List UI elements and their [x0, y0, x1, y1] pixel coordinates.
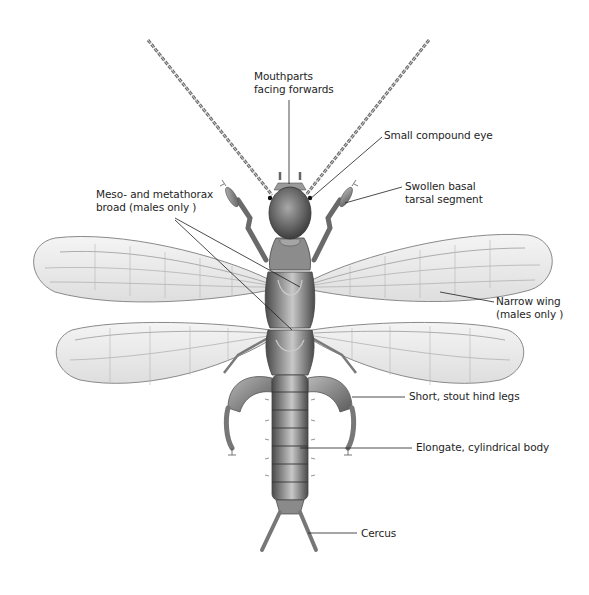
label-hind-legs: Short, stout hind legs [409, 390, 520, 403]
thorax [265, 238, 315, 375]
antenna-left [148, 40, 272, 195]
label-mouthparts: Mouthparts facing forwards [254, 70, 334, 96]
cercus-right [300, 512, 316, 550]
abdomen [265, 375, 315, 514]
insect-diagram: Mouthparts facing forwards Small compoun… [0, 0, 589, 595]
antenna-right [306, 40, 429, 195]
label-narrow-wing: Narrow wing (males only ) [496, 295, 563, 321]
hind-leg-left [226, 377, 272, 455]
label-tarsal-segment: Swollen basal tarsal segment [405, 180, 483, 206]
front-leg-left [220, 180, 266, 260]
front-leg-right [314, 180, 358, 260]
cercus-left [262, 512, 280, 550]
hindwing-right [312, 322, 524, 385]
label-cercus: Cercus [361, 527, 396, 540]
hind-leg-right [308, 377, 354, 455]
label-thorax: Meso- and metathorax broad (males only ) [96, 188, 213, 214]
leader-tarsal-segment [345, 187, 402, 203]
compound-eye-left [268, 196, 272, 200]
label-compound-eye: Small compound eye [384, 129, 493, 142]
forewing-left [34, 236, 270, 301]
head [268, 172, 312, 246]
label-body: Elongate, cylindrical body [416, 441, 549, 454]
forewing-right [312, 234, 552, 301]
leader-lines [175, 100, 494, 533]
